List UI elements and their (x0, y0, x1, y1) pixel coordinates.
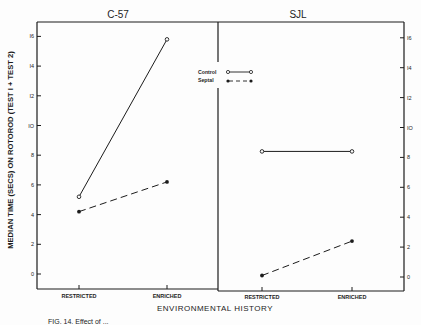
legend-marker-septal (249, 79, 252, 82)
plot-frame (37, 22, 404, 291)
y-tick-label: 4 (407, 214, 410, 220)
y-tick-label: I4 (407, 65, 412, 71)
x-label-sjl-restricted: RESTRICTED (244, 294, 279, 300)
panel-title-sjl: SJL (289, 9, 307, 20)
y-tick-label: 2 (31, 241, 34, 247)
y-tick-label: 8 (407, 154, 410, 160)
y-tick-label: I2 (407, 95, 412, 101)
legend-marker-control (226, 70, 229, 73)
y-tick-label: 8 (31, 152, 34, 158)
data-point-control (77, 195, 81, 199)
data-point-control (165, 38, 169, 42)
left-y-axis: 02468IOI2I4I6 (28, 33, 41, 277)
x-axis-title: ENVIRONMENTAL HISTORY (157, 304, 273, 313)
data-point-septal (77, 210, 81, 214)
y-axis-title: MEDIAN TIME (SECS) ON ROTOROD (TEST I + … (6, 51, 15, 249)
series-line-control (79, 39, 167, 196)
y-tick-label: I4 (29, 63, 34, 69)
x-label-c57-restricted: RESTRICTED (61, 293, 96, 299)
x-label-c57-enriched: ENRICHED (153, 293, 182, 299)
legend-marker-septal (226, 79, 229, 82)
x-ticks (79, 285, 352, 291)
data-point-control (350, 150, 354, 154)
y-tick-label: I2 (29, 93, 34, 99)
y-tick-label: IO (28, 123, 35, 129)
y-tick-label: 4 (31, 212, 34, 218)
y-tick-label: 2 (407, 244, 410, 250)
data-point-septal (260, 274, 264, 278)
y-tick-label: IO (407, 125, 414, 131)
figure-caption: FIG. 14. Effect of ... (48, 318, 109, 325)
panel-title-c57: C-57 (107, 9, 129, 20)
right-y-axis: 02468IOI2I4I6 (400, 35, 414, 280)
data-point-septal (350, 239, 354, 243)
y-tick-label: 6 (31, 182, 34, 188)
series-line-septal (262, 241, 352, 275)
y-tick-label: I6 (407, 35, 412, 41)
legend-label-septal: Septal (198, 77, 214, 83)
x-label-sjl-enriched: ENRICHED (338, 294, 367, 300)
y-tick-label: 0 (31, 271, 34, 277)
y-tick-label: 0 (407, 274, 410, 280)
y-tick-label: I6 (29, 33, 34, 39)
data-point-control (260, 150, 264, 154)
data-point-septal (165, 180, 169, 184)
y-tick-label: 6 (407, 184, 410, 190)
series-line-septal (79, 182, 167, 212)
legend-label-control: Control (198, 69, 217, 75)
legend-marker-control (249, 70, 252, 73)
chart: C-57 SJL 02468IOI2I4I6 02468IOI2I4I6 RES… (0, 0, 421, 325)
legend: Control Septal (198, 69, 253, 83)
